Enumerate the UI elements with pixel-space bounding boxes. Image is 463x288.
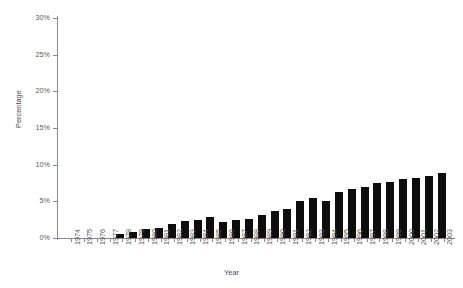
x-tick-label: 1982 bbox=[176, 229, 183, 245]
x-tick-label: 1988 bbox=[253, 229, 260, 245]
x-tick-mark bbox=[315, 238, 316, 242]
x-tick-label: 1990 bbox=[279, 229, 286, 245]
y-axis-title: Percentage bbox=[14, 90, 23, 128]
x-tick-label: 2001 bbox=[420, 229, 427, 245]
x-tick-label: 2002 bbox=[433, 229, 440, 245]
x-tick-label: 1991 bbox=[292, 229, 299, 245]
y-tick-mark bbox=[53, 238, 57, 239]
x-tick-label: 1996 bbox=[356, 229, 363, 245]
x-tick-mark bbox=[71, 238, 72, 242]
x-tick-label: 1980 bbox=[151, 229, 158, 245]
y-tick-label-wrap: 20% bbox=[0, 91, 50, 92]
x-tick-mark bbox=[328, 238, 329, 242]
y-tick-label: 15% bbox=[36, 124, 50, 131]
x-tick-label: 1987 bbox=[241, 229, 248, 245]
x-tick-label: 1979 bbox=[138, 229, 145, 245]
x-tick-label: 1975 bbox=[86, 229, 93, 245]
x-tick-label: 1976 bbox=[99, 229, 106, 245]
x-tick-label: 1995 bbox=[343, 229, 350, 245]
x-tick-label: 1994 bbox=[331, 229, 338, 245]
x-tick-label: 1981 bbox=[163, 229, 170, 245]
y-tick-label-wrap: 10% bbox=[0, 165, 50, 166]
x-tick-label: 1985 bbox=[215, 229, 222, 245]
x-tick-label: 1998 bbox=[382, 229, 389, 245]
x-tick-label: 2003 bbox=[446, 229, 453, 245]
x-tick-label: 1984 bbox=[202, 229, 209, 245]
x-tick-label: 1978 bbox=[125, 229, 132, 245]
x-tick-mark bbox=[238, 238, 239, 242]
bars-group bbox=[57, 18, 455, 238]
x-tick-label: 1997 bbox=[369, 229, 376, 245]
y-tick-label-wrap: 25% bbox=[0, 55, 50, 56]
y-tick-label-wrap: 30% bbox=[0, 18, 50, 19]
x-tick-label: 1983 bbox=[189, 229, 196, 245]
x-tick-label: 1999 bbox=[395, 229, 402, 245]
x-tick-label: 1986 bbox=[228, 229, 235, 245]
y-tick-label: 20% bbox=[36, 87, 50, 94]
x-tick-mark bbox=[148, 238, 149, 242]
y-tick-label-wrap: 15% bbox=[0, 128, 50, 129]
x-axis-title: Year bbox=[0, 268, 463, 277]
x-tick-label: 1974 bbox=[74, 229, 81, 245]
x-tick-label: 1993 bbox=[318, 229, 325, 245]
y-tick-label: 0% bbox=[40, 234, 50, 241]
y-tick-label: 10% bbox=[36, 161, 50, 168]
x-tick-label: 2000 bbox=[408, 229, 415, 245]
x-tick-label: 1992 bbox=[305, 229, 312, 245]
y-tick-label: 30% bbox=[36, 14, 50, 21]
y-tick-label: 5% bbox=[40, 197, 50, 204]
y-tick-label: 25% bbox=[36, 51, 50, 58]
x-tick-label: 1977 bbox=[112, 229, 119, 245]
x-tick-mark bbox=[405, 238, 406, 242]
x-tick-label: 1989 bbox=[266, 229, 273, 245]
bar-chart: 0%5%10%15%20%25%30% 19741975197619771978… bbox=[0, 0, 463, 288]
y-tick-label-wrap: 0% bbox=[0, 238, 50, 239]
y-tick-label-wrap: 5% bbox=[0, 201, 50, 202]
